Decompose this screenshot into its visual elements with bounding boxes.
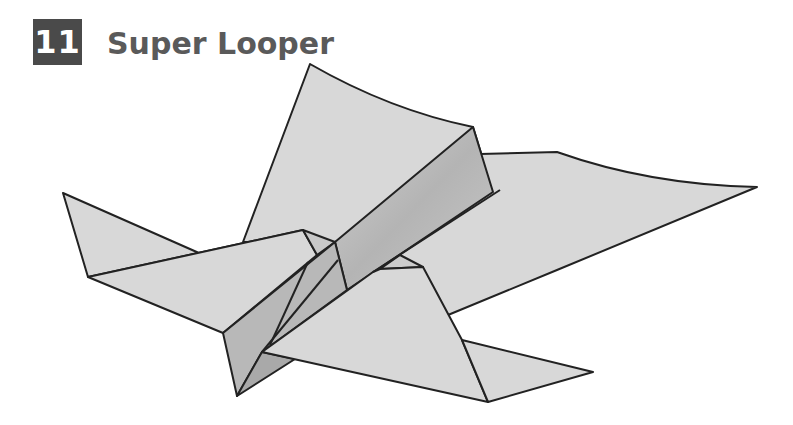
paper-airplane-illustration [0, 0, 793, 425]
